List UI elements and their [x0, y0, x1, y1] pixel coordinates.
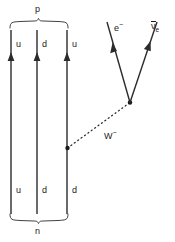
quark-line-3-arrow-icon: [64, 52, 71, 61]
w-boson-charge: −: [113, 129, 117, 136]
proton-brace: [10, 19, 68, 29]
w-boson-label: W−: [104, 129, 117, 141]
antineutrino-arrow-icon: [144, 41, 151, 51]
quark-line-3-top-label: u: [72, 40, 77, 49]
w-boson-symbol: W: [104, 131, 113, 141]
electron-label: e−: [114, 21, 123, 33]
quark-line-2-arrow-icon: [34, 52, 41, 61]
antineutrino-subscript: e: [156, 26, 160, 33]
weak-vertex-quark: [65, 146, 69, 150]
proton-label: p: [35, 5, 40, 14]
w-boson-propagator: [68, 103, 131, 149]
diagram-canvas: [0, 0, 175, 242]
antineutrino-line: [130, 22, 157, 103]
quark-line-1-arrow-icon: [8, 52, 15, 61]
neutron-brace: [10, 214, 68, 224]
antineutrino-label: νe: [151, 21, 159, 33]
quark-line-3-bottom-label: d: [72, 186, 77, 195]
quark-line-2-bottom-label: d: [42, 186, 47, 195]
electron-line: [107, 22, 130, 103]
quark-line-1-top-label: u: [16, 40, 21, 49]
quark-line-1-bottom-label: u: [16, 186, 21, 195]
neutron-label: n: [35, 227, 40, 236]
feynman-diagram: p n u d u u d d W− e− νe: [0, 0, 175, 242]
electron-charge: −: [119, 21, 123, 28]
quark-line-2-top-label: d: [42, 40, 47, 49]
